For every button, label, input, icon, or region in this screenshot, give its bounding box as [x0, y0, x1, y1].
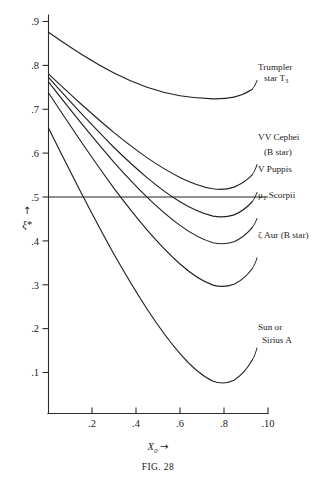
y-tick-label-0.4: .4	[31, 236, 40, 247]
x-axis-arrow-icon: →	[160, 441, 168, 452]
leader-zeta-aur	[252, 258, 257, 269]
x-tick-marks	[92, 408, 268, 414]
y-tick-label-0.5: .5	[31, 192, 39, 203]
y-tick-label-0.9: .9	[31, 16, 39, 27]
label-leader-lines	[252, 81, 257, 361]
curve-vv-cephei	[49, 74, 253, 189]
series-labels: Trumpler star T3 VV Cephei (B star) V Pu…	[258, 62, 309, 345]
leader-mu1-scorpii	[252, 219, 257, 228]
figure-container: .9 .8 .7 .6 .5 .4 .3 .2 .1 .2 .4 .6 .8 .…	[0, 0, 323, 488]
x-tick-label-1.0: .10	[261, 418, 274, 429]
curve-mu1-scorpii	[49, 82, 253, 244]
series-curves	[49, 32, 253, 383]
leader-trumpler	[252, 81, 257, 90]
x-tick-label-0.8: .8	[220, 418, 228, 429]
x-tick-labels: .2 .4 .6 .8 .10	[88, 418, 275, 429]
series-label-sun-line1: Sun or	[258, 322, 282, 332]
series-label-v-puppis: V Puppis	[258, 164, 292, 174]
line-chart-svg: .9 .8 .7 .6 .5 .4 .3 .2 .1 .2 .4 .6 .8 .…	[0, 0, 323, 488]
curve-sun-or-sirius-a	[49, 128, 253, 383]
x-tick-label-0.2: .2	[88, 418, 96, 429]
x-axis-title: X0 →	[147, 441, 169, 455]
y-tick-label-0.2: .2	[31, 323, 39, 334]
y-axis-arrow-icon: ↑	[23, 205, 31, 216]
x-tick-label-0.6: .6	[176, 418, 184, 429]
series-label-trumpler-star: star T	[264, 73, 285, 83]
series-label-zeta-aur: ζ Aur (B star)	[258, 230, 309, 240]
series-label-trumpler-line2: star T3	[264, 73, 289, 84]
y-axis-title: ξ*	[22, 219, 32, 231]
y-tick-label-0.1: .1	[31, 367, 39, 378]
series-label-vv-cephei-line2: (B star)	[264, 147, 292, 157]
series-label-mu1-scorpii: μ1 Scorpii	[258, 190, 296, 201]
curve-trumpler-star-t3	[49, 32, 253, 99]
series-label-scorpii: Scorpii	[269, 190, 296, 200]
y-tick-label-0.7: .7	[31, 104, 39, 115]
y-tick-labels: .9 .8 .7 .6 .5 .4 .3 .2 .1	[31, 16, 40, 378]
y-tick-marks	[43, 22, 49, 373]
x-tick-label-0.4: .4	[132, 418, 141, 429]
y-tick-label-0.3: .3	[31, 280, 39, 291]
y-tick-label-0.6: .6	[31, 148, 39, 159]
series-label-trumpler-subscript: 3	[285, 77, 289, 84]
leader-vv-cephei	[252, 165, 257, 176]
figure-caption: FIG. 28	[142, 462, 174, 472]
series-label-sun-line2: Sirius A	[262, 335, 292, 345]
series-label-vv-cephei-line1: VV Cephei	[258, 132, 300, 142]
y-tick-label-0.8: .8	[31, 60, 39, 71]
leader-sun-sirius	[252, 348, 257, 361]
series-label-trumpler-line1: Trumpler	[258, 62, 292, 72]
